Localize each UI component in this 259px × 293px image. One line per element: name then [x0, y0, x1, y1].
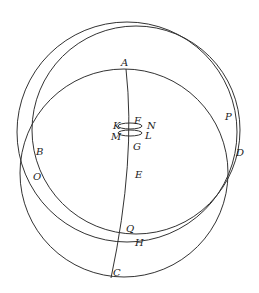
label-g: G	[133, 141, 141, 152]
diagram-canvas: A B C D E F G H K L M N O P Q	[0, 0, 259, 293]
label-d: D	[235, 147, 244, 158]
third-circle	[20, 69, 228, 277]
label-m: M	[110, 131, 122, 142]
label-c: C	[113, 267, 121, 278]
label-h: H	[134, 237, 144, 248]
label-l: L	[144, 130, 152, 141]
label-a: A	[120, 57, 128, 68]
label-b: B	[35, 146, 43, 157]
label-o: O	[33, 171, 41, 182]
arc-ac	[111, 69, 129, 278]
label-k: K	[112, 120, 121, 131]
label-f: F	[133, 115, 142, 126]
label-n: N	[146, 120, 157, 131]
label-e: E	[134, 169, 143, 180]
small-ellipse-ml	[118, 130, 142, 136]
label-q: Q	[126, 223, 134, 234]
label-p: P	[224, 111, 232, 122]
